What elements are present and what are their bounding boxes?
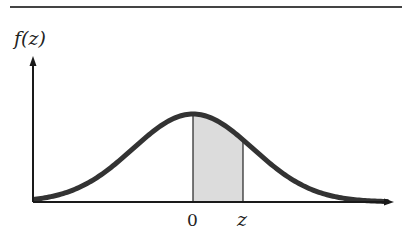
x-tick-z: z (237, 208, 247, 230)
normal-curve-figure (0, 0, 409, 247)
x-axis-arrow-icon (384, 199, 394, 206)
x-tick-zero: 0 (187, 210, 198, 230)
shaded-area-0-to-z (193, 114, 243, 202)
y-axis-label: f(z) (14, 27, 46, 49)
y-axis-arrow-icon (30, 56, 37, 66)
